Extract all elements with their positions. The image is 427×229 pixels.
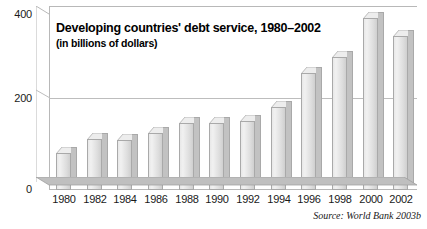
bar-side (194, 117, 200, 184)
chart-subtitle: (in billions of dollars) (56, 37, 356, 50)
debt-service-bar-chart: 400 200 0 198019821984198 (0, 0, 427, 229)
x-tick-label-1996: 1996 (293, 193, 325, 205)
source-note: Source: World Bank 2003b (313, 210, 421, 221)
bar-1996 (301, 67, 322, 190)
bar-front (363, 18, 378, 190)
bar-2000 (363, 12, 384, 190)
bar-front (332, 57, 347, 190)
y-tick-label-200: 200 (14, 92, 32, 104)
bar-side (286, 101, 292, 184)
bar-side (347, 51, 353, 184)
x-tick-label-1998: 1998 (324, 193, 356, 205)
bar-side (255, 115, 261, 184)
title-block: Developing countries' debt service, 1980… (56, 21, 356, 50)
bar-1998 (332, 51, 353, 190)
x-tick-label-1980: 1980 (48, 193, 80, 205)
x-tick-label-2002: 2002 (385, 193, 417, 205)
bar-side (408, 30, 414, 184)
x-tick-label-1986: 1986 (140, 193, 172, 205)
bar-side (316, 67, 322, 184)
x-axis: 1980198219841986198819901992199419961998… (36, 193, 417, 209)
y-tick-label-0: 0 (26, 183, 32, 195)
bar-side (224, 117, 230, 184)
x-tick-label-1984: 1984 (109, 193, 141, 205)
y-axis: 400 200 0 (0, 0, 34, 200)
x-tick-label-1992: 1992 (232, 193, 264, 205)
x-tick-label-2000: 2000 (355, 193, 387, 205)
x-tick-label-1994: 1994 (263, 193, 295, 205)
chart-title: Developing countries' debt service, 1980… (56, 21, 356, 35)
bar-side (378, 12, 384, 184)
x-tick-label-1982: 1982 (79, 193, 111, 205)
x-tick-label-1990: 1990 (201, 193, 233, 205)
bar-2002 (393, 30, 414, 190)
bar-side (163, 127, 169, 184)
y-tick-label-400: 400 (14, 8, 32, 20)
bar-front (393, 36, 408, 190)
floor-plane (36, 177, 417, 191)
bar-front (301, 73, 316, 190)
x-tick-label-1988: 1988 (171, 193, 203, 205)
